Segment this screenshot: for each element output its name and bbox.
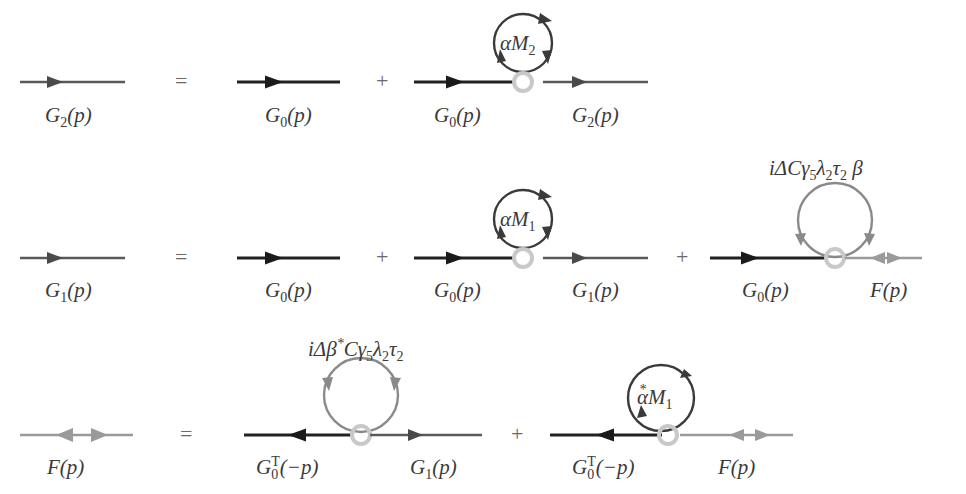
arrow-right-icon	[446, 76, 464, 89]
propagator-f-lhs	[20, 428, 133, 442]
plus-sign: +	[376, 244, 388, 269]
propagator-g0	[237, 76, 340, 89]
label-g2-right: G2(p)	[572, 103, 619, 130]
arrow-left-icon	[288, 429, 306, 442]
equation-row-1: G2(p) = G0(p) + αM2 G0(p) G2(p)	[20, 13, 648, 130]
loop-delta	[798, 183, 872, 257]
arrow-right-icon	[755, 429, 770, 441]
arrow-right-icon	[47, 252, 63, 264]
self-energy-term-m2: αM2 G0(p) G2(p)	[414, 13, 648, 130]
arrow-left-icon	[870, 252, 885, 264]
loop-label-delta-star: iΔβ*Cγ5λ2τ2	[308, 336, 404, 364]
arrow-left-icon	[56, 428, 73, 442]
self-energy-term-m1: αM1 G0(p) G1(p)	[414, 189, 648, 305]
propagator-g1-lhs	[20, 252, 125, 264]
label-g0-left: G0(p)	[434, 278, 481, 305]
plus-sign: +	[511, 421, 523, 446]
dyson-equations-diagram: G2(p) = G0(p) + αM2 G0(p) G2(p)	[0, 0, 966, 494]
anomalous-term-delta-star: iΔβ*Cγ5λ2τ2 G0T(−p) G1(p)	[244, 336, 482, 482]
vertex-circle	[514, 249, 532, 267]
plus-sign: +	[676, 244, 688, 269]
label-g1-lhs: G1(p)	[45, 278, 92, 305]
arrow-right-icon	[572, 252, 587, 264]
loop-delta-star	[324, 358, 398, 432]
label-g0: G0(p)	[265, 103, 312, 130]
propagator-g0	[237, 252, 340, 265]
loop-label-m1-star: α*M1	[637, 382, 673, 412]
label-g1-right: G1(p)	[572, 278, 619, 305]
label-f-lhs: F(p)	[46, 455, 84, 479]
label-g0-left: G0(p)	[434, 103, 481, 130]
equation-row-3: F(p) = iΔβ*Cγ5λ2τ2 G0T(−p) G1(p) +	[20, 336, 793, 482]
equation-row-2: G1(p) = G0(p) + αM1 G0(p) G1(p) +	[20, 156, 922, 305]
arrow-icon	[538, 13, 552, 24]
loop-label-m2: αM2	[500, 31, 536, 58]
arrow-right-icon	[887, 252, 902, 264]
vertex-circle	[352, 426, 370, 444]
loop-label-m1: αM1	[500, 207, 536, 234]
plus-sign: +	[376, 68, 388, 93]
anomalous-term-delta: iΔCγ5λ2τ2 β G0(p) F(p)	[710, 156, 922, 305]
label-g0-left: G0(p)	[742, 278, 789, 305]
vertex-circle	[514, 73, 532, 91]
arrow-right-icon	[408, 429, 423, 441]
arrow-right-icon	[265, 76, 283, 89]
equals-sign: =	[175, 244, 187, 269]
label-g1-right: G1(p)	[410, 455, 457, 482]
label-g0t-left: G0T(−p)	[572, 454, 634, 482]
arrow-left-icon	[729, 429, 744, 441]
arrow-right-icon	[572, 76, 587, 88]
label-g0t-left: G0T(−p)	[256, 454, 318, 482]
arrow-right-icon	[265, 252, 283, 265]
loop-label-delta: iΔCγ5λ2τ2 β	[769, 156, 863, 183]
equals-sign: =	[180, 421, 192, 446]
propagator-g2-lhs	[20, 76, 125, 88]
arrow-right-icon	[91, 428, 108, 442]
equals-sign: =	[175, 68, 187, 93]
label-g2-lhs: G2(p)	[45, 103, 92, 130]
self-energy-term-m1-star: α*M1 G0T(−p) F(p)	[550, 365, 793, 482]
arrow-icon	[390, 377, 401, 391]
label-g0: G0(p)	[265, 278, 312, 305]
label-f-right: F(p)	[869, 278, 907, 302]
arrow-right-icon	[741, 252, 759, 265]
label-f-right: F(p)	[717, 455, 755, 479]
arrow-left-icon	[596, 429, 614, 442]
arrow-right-icon	[47, 76, 63, 88]
arrow-right-icon	[446, 252, 464, 265]
arrow-icon	[538, 189, 552, 200]
